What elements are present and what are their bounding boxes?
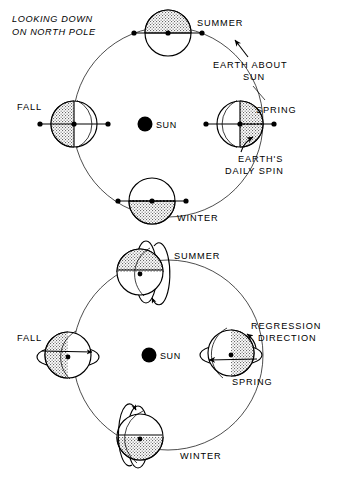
annotation-earth-about-sun-line1: EARTH ABOUT <box>213 60 288 70</box>
panel-title-line2: ON NORTH POLE <box>12 27 96 37</box>
season-label-summer-top: SUMMER <box>197 18 243 28</box>
annotation-regression-direction-line1: REGRESSION <box>251 321 321 331</box>
annotation-earths-daily-spin-line1: EARTH'S <box>238 154 283 164</box>
sun-marker-top <box>138 117 153 132</box>
season-label-winter-top: WINTER <box>177 213 219 223</box>
sun-label-bottom: SUN <box>160 351 181 361</box>
annotation-earth-about-sun-line2: SUN <box>243 72 265 82</box>
panel-title-line1: LOOKING DOWN <box>12 14 93 24</box>
season-label-fall-top: FALL <box>17 102 42 112</box>
season-label-summer-bottom: SUMMER <box>174 251 220 261</box>
figure-background <box>0 0 337 492</box>
season-label-spring-bottom: SPRING <box>232 377 273 387</box>
earth-orbit-seasons-figure: LOOKING DOWN ON NORTH POLE SUN SUMMER <box>0 0 337 492</box>
annotation-earths-daily-spin-line2: DAILY SPIN <box>225 166 284 176</box>
sun-marker-bottom <box>142 348 157 363</box>
sun-label-top: SUN <box>156 120 177 130</box>
season-label-fall-bottom: FALL <box>17 333 42 343</box>
annotation-regression-direction-line2: DIRECTION <box>258 333 317 343</box>
season-label-winter-bottom: WINTER <box>180 451 222 461</box>
season-label-spring-top: SPRING <box>256 105 297 115</box>
